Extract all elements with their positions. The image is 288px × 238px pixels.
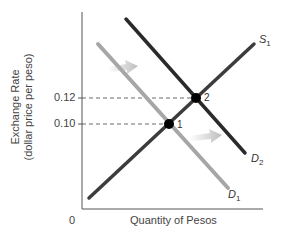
point-2-label: 2: [204, 92, 210, 103]
label-d2-main: D: [251, 152, 259, 164]
label-d1-sub: 1: [236, 194, 240, 203]
label-s1-sub: 1: [266, 39, 270, 48]
label-d1-main: D: [228, 188, 236, 200]
origin-label: 0: [69, 214, 75, 226]
label-d2: D2: [251, 152, 263, 167]
y-axis-label-line2: (dollar price per peso): [22, 54, 35, 161]
point-1-label: 1: [177, 119, 183, 130]
chart-canvas: [0, 0, 288, 238]
shift-arrow-lower-icon: [190, 129, 222, 143]
tick-label-010: 0.10: [54, 117, 75, 129]
x-axis-label: Quantity of Pesos: [130, 214, 217, 226]
curve-d1: [98, 44, 228, 188]
label-d1: D1: [228, 188, 240, 203]
label-d2-sub: 2: [259, 158, 263, 167]
curve-d2: [126, 19, 245, 153]
equilibrium-point-1: [164, 119, 174, 129]
y-axis-label-line1: Exchange Rate: [9, 54, 22, 161]
tick-label-012: 0.12: [54, 91, 75, 103]
label-s1: S1: [259, 33, 271, 48]
y-axis-label: Exchange Rate (dollar price per peso): [2, 42, 42, 172]
equilibrium-point-2: [191, 93, 201, 103]
